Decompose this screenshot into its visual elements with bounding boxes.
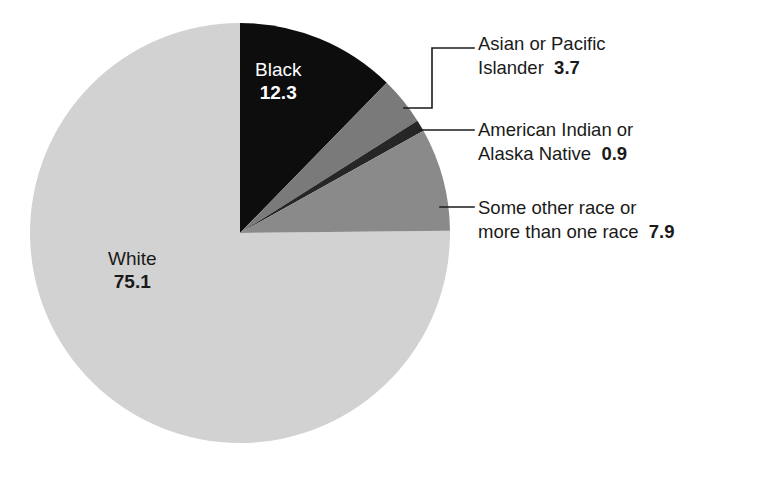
pie-label-white: White 75.1 bbox=[108, 247, 157, 293]
pie-callout-american-indian-alaska-native-line1: American Indian or bbox=[478, 118, 633, 142]
pie-label-black: Black 12.3 bbox=[255, 58, 301, 104]
pie-label-white-value: 75.1 bbox=[108, 270, 157, 293]
pie-label-white-name: White bbox=[108, 247, 157, 270]
leader-line-asian-pacific-islander bbox=[404, 48, 474, 108]
pie-callout-american-indian-alaska-native-value: 0.9 bbox=[601, 143, 627, 164]
pie-callout-some-other-race-line2: more than one race 7.9 bbox=[478, 220, 674, 244]
pie-slices bbox=[30, 23, 450, 443]
pie-chart-figure: Black 12.3 White 75.1 Asian or Pacific I… bbox=[0, 0, 777, 478]
pie-callout-american-indian-alaska-native-line2: Alaska Native 0.9 bbox=[478, 142, 633, 166]
pie-callout-asian-pacific-islander-line1: Asian or Pacific bbox=[478, 32, 606, 56]
pie-callout-asian-pacific-islander-line2: Islander 3.7 bbox=[478, 56, 606, 80]
pie-callout-some-other-race-line2-text: more than one race bbox=[478, 221, 638, 242]
pie-callout-some-other-race: Some other race or more than one race 7.… bbox=[478, 196, 674, 244]
pie-callout-some-other-race-value: 7.9 bbox=[649, 221, 675, 242]
pie-callout-asian-pacific-islander-line2-text: Islander bbox=[478, 57, 544, 78]
pie-label-black-name: Black bbox=[255, 58, 301, 81]
pie-callout-american-indian-alaska-native: American Indian or Alaska Native 0.9 bbox=[478, 118, 633, 166]
pie-callout-american-indian-alaska-native-line2-text: Alaska Native bbox=[478, 143, 591, 164]
pie-callout-some-other-race-line1: Some other race or bbox=[478, 196, 674, 220]
pie-callout-asian-pacific-islander-value: 3.7 bbox=[554, 57, 580, 78]
pie-callout-asian-pacific-islander: Asian or Pacific Islander 3.7 bbox=[478, 32, 606, 80]
pie-label-black-value: 12.3 bbox=[255, 81, 301, 104]
